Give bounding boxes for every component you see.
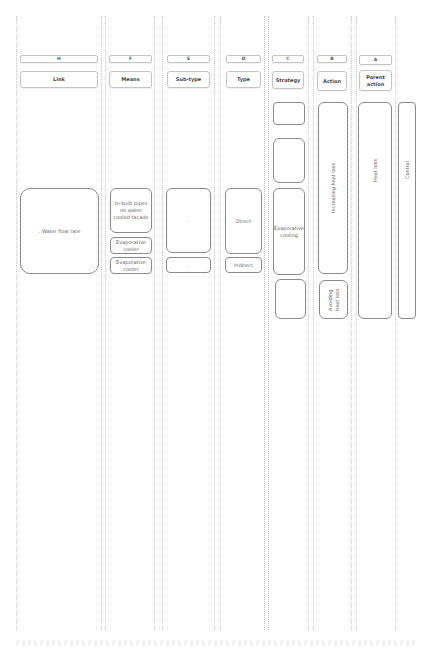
type-box-direct: Direct bbox=[225, 188, 262, 254]
column-divider bbox=[101, 16, 102, 630]
column-header-parent-action: Parent action bbox=[359, 70, 392, 91]
column-divider bbox=[395, 16, 396, 630]
column-letter-a: A bbox=[359, 55, 392, 65]
link-box-water-flow-rate: . Water flow rate bbox=[20, 188, 99, 274]
column-letter-f: F bbox=[109, 55, 152, 63]
parent-action-box-control: Control bbox=[398, 102, 416, 319]
action-label-avoiding-heat-loss: Avoiding heat loss bbox=[327, 283, 340, 317]
column-header-link: Link bbox=[20, 71, 98, 88]
strategy-box-empty-3 bbox=[275, 279, 306, 319]
parent-action-box-heat-loss: Heat loss bbox=[358, 102, 392, 319]
means-box-evaporative-cooler-1: Evaporative cooler bbox=[110, 237, 152, 254]
means-box-in-built-pipes: In-built pipes on water cooled facade bbox=[110, 188, 152, 233]
column-divider bbox=[351, 16, 352, 630]
column-divider bbox=[220, 16, 221, 630]
column-divider bbox=[313, 16, 314, 630]
column-divider bbox=[16, 16, 17, 630]
column-letter-h: H bbox=[20, 55, 98, 63]
type-box-indirect: Indirect bbox=[225, 257, 262, 273]
subtype-box-1: . bbox=[166, 188, 211, 253]
column-divider bbox=[154, 16, 155, 630]
column-header-type: Type bbox=[226, 71, 261, 88]
strategy-box-empty-1 bbox=[273, 102, 305, 125]
action-label-increasing-heat-loss: Increasing heat loss bbox=[330, 163, 337, 213]
column-header-sub-type: Sub-type bbox=[167, 71, 210, 88]
column-header-action: Action bbox=[317, 71, 347, 91]
figure-caption bbox=[16, 640, 416, 646]
strategy-box-evaporative-cooling: Evaporative cooling bbox=[273, 188, 305, 275]
column-divider bbox=[356, 16, 357, 630]
column-divider bbox=[308, 16, 309, 630]
column-header-means: Means bbox=[109, 71, 152, 88]
column-divider bbox=[268, 16, 269, 630]
strategy-box-empty-2 bbox=[273, 138, 305, 183]
column-header-strategy: Strategy bbox=[272, 71, 304, 89]
subtype-box-2: . bbox=[166, 257, 211, 273]
column-letter-b: B bbox=[317, 55, 347, 63]
column-divider bbox=[264, 16, 265, 630]
column-divider bbox=[162, 16, 163, 630]
parent-action-label-control: Control bbox=[404, 161, 411, 179]
action-box-avoiding-heat-loss: Avoiding heat loss bbox=[319, 280, 348, 319]
means-box-evaporative-cooler-2: Evaporative cooler bbox=[110, 257, 152, 274]
column-letter-e: E bbox=[167, 55, 210, 63]
column-divider bbox=[105, 16, 106, 630]
parent-action-label-heat-loss: Heat loss bbox=[372, 159, 379, 182]
column-letter-d: D bbox=[226, 55, 261, 63]
action-box-increasing-heat-loss: Increasing heat loss bbox=[318, 102, 348, 274]
column-divider bbox=[214, 16, 215, 630]
column-letter-c: C bbox=[272, 55, 304, 63]
